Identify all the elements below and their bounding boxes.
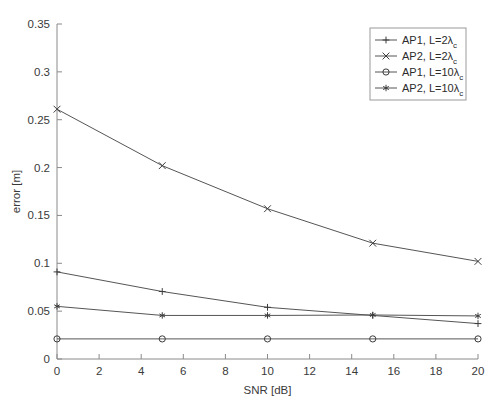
x-tick-label: 2 xyxy=(96,365,102,377)
x-tick-label: 6 xyxy=(180,365,186,377)
series-line xyxy=(57,109,478,261)
data-point xyxy=(159,162,166,169)
x-tick-label: 12 xyxy=(303,365,316,377)
x-tick-label: 0 xyxy=(54,365,60,377)
legend-label-subscript: c xyxy=(453,57,457,66)
series-1 xyxy=(54,106,482,265)
x-tick-label: 10 xyxy=(261,365,274,377)
x-tick-group: 02468101214161820 xyxy=(54,354,485,377)
y-tick-label: 0.35 xyxy=(28,18,50,30)
y-tick-label: 0.3 xyxy=(34,66,50,78)
y-tick-label: 0.15 xyxy=(28,209,50,221)
x-tick-label: 18 xyxy=(430,365,443,377)
data-point xyxy=(264,304,271,311)
legend-label-subscript: c xyxy=(459,73,463,82)
x-tick-label: 16 xyxy=(387,365,400,377)
x-tick-label: 14 xyxy=(345,365,358,377)
y-tick-label: 0.1 xyxy=(34,257,50,269)
y-tick-label: 0.05 xyxy=(28,305,50,317)
data-point xyxy=(54,269,61,276)
x-tick-label: 20 xyxy=(472,365,485,377)
series-2 xyxy=(54,336,481,342)
x-tick-label: 8 xyxy=(222,365,228,377)
x-axis-title: SNR [dB] xyxy=(244,384,292,396)
data-point xyxy=(475,320,482,327)
y-tick-label: 0.2 xyxy=(34,162,50,174)
legend-label-subscript: c xyxy=(459,89,463,98)
y-axis-title: error [m] xyxy=(10,170,22,213)
y-tick-label: 0 xyxy=(44,353,50,365)
legend[interactable]: AP1, L=2λcAP2, L=2λcAP1, L=10λcAP2, L=10… xyxy=(370,28,466,100)
y-tick-label: 0.25 xyxy=(28,114,50,126)
legend-label-subscript: c xyxy=(453,41,457,50)
chart-figure: 00.050.10.150.20.250.30.3502468101214161… xyxy=(0,0,498,408)
data-point xyxy=(264,205,271,212)
x-tick-label: 4 xyxy=(138,365,145,377)
error-vs-snr-line-chart: 00.050.10.150.20.250.30.3502468101214161… xyxy=(0,0,498,408)
data-point xyxy=(159,288,166,295)
